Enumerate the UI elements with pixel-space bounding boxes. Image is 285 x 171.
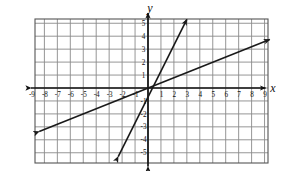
x-tick-label: -4	[94, 91, 100, 99]
y-tick-label: -1	[141, 98, 147, 106]
y-tick-label: 2	[142, 59, 146, 67]
y-tick-label: -3	[141, 123, 147, 131]
x-tick-label: 4	[199, 91, 203, 99]
y-tick-label: 3	[142, 46, 146, 54]
graph-figure: D -9-8-7-6-5-4-3-2-1123456789 54321-1-2-…	[0, 0, 285, 171]
x-tick-label: 2	[173, 91, 177, 99]
x-tick-label: -1	[133, 91, 139, 99]
x-tick-label: -9	[29, 91, 35, 99]
y-tick-label: 1	[142, 72, 146, 80]
x-tick-label: -7	[55, 91, 61, 99]
y-tick-label: 5	[142, 20, 146, 28]
y-tick-label: -2	[141, 111, 147, 119]
x-axis-label: x	[269, 81, 276, 95]
x-tick-label: 9	[263, 91, 267, 99]
x-tick-label: 8	[250, 91, 254, 99]
y-axis-label: y	[146, 1, 153, 15]
x-tick-label: 6	[224, 91, 228, 99]
x-tick-label: 7	[237, 91, 241, 99]
y-tick-label: -4	[141, 136, 147, 144]
x-tick-label: -3	[107, 91, 113, 99]
x-tick-label: -5	[81, 91, 87, 99]
coordinate-plane: -9-8-7-6-5-4-3-2-1123456789 54321-1-2-3-…	[0, 0, 285, 171]
x-tick-label: 5	[211, 91, 215, 99]
y-tick-label: -5	[141, 149, 147, 157]
x-tick-label: -8	[42, 91, 48, 99]
y-tick-label: 4	[142, 33, 146, 41]
x-tick-label: -6	[68, 91, 74, 99]
x-tick-label: 3	[186, 91, 190, 99]
x-tick-label: 1	[160, 91, 164, 99]
x-tick-label: -2	[120, 91, 126, 99]
